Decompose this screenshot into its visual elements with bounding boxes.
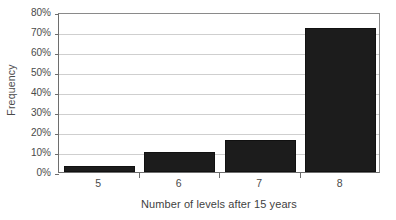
y-tick-label: 60%: [31, 48, 51, 58]
bar: [305, 28, 376, 172]
plot-area: [58, 13, 380, 173]
bar-chart-figure: Frequency 0%10%20%30%40%50%60%70%80% 567…: [0, 0, 396, 220]
bars-layer: [59, 14, 379, 172]
y-tick-label: 40%: [31, 88, 51, 98]
bar: [225, 140, 296, 172]
x-axis-tick-labels: 5678: [58, 178, 380, 194]
y-tick-mark: [55, 114, 59, 115]
y-tick-label: 0%: [37, 168, 51, 178]
x-axis-title: Number of levels after 15 years: [58, 198, 380, 210]
y-tick-label: 80%: [31, 8, 51, 18]
y-tick-mark: [55, 94, 59, 95]
y-tick-mark: [55, 34, 59, 35]
y-tick-label: 70%: [31, 28, 51, 38]
y-tick-mark: [55, 14, 59, 15]
y-tick-mark: [55, 134, 59, 135]
bar: [144, 152, 215, 172]
y-axis-title: Frequency: [0, 0, 22, 180]
x-tick-label: 6: [176, 178, 182, 189]
y-tick-mark: [55, 74, 59, 75]
x-tick-label: 5: [95, 178, 101, 189]
y-tick-mark: [55, 154, 59, 155]
y-axis-tick-labels: 0%10%20%30%40%50%60%70%80%: [20, 13, 54, 173]
y-tick-label: 30%: [31, 108, 51, 118]
x-tick-label: 8: [337, 178, 343, 189]
y-axis-title-text: Frequency: [5, 64, 17, 115]
x-tick-label: 7: [256, 178, 262, 189]
y-tick-label: 50%: [31, 68, 51, 78]
y-tick-label: 10%: [31, 148, 51, 158]
y-tick-mark: [55, 54, 59, 55]
bar: [64, 166, 135, 172]
y-tick-label: 20%: [31, 128, 51, 138]
